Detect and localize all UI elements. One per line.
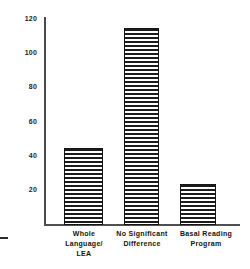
x-label-line-2: Program — [168, 239, 244, 249]
x-label-line-1: Basal Reading — [168, 229, 244, 239]
bar-chart: 120 100 80 60 40 20 Whole Language/ LEA … — [0, 0, 250, 269]
bar-basal-reading-program — [180, 184, 216, 225]
x-label-basal-reading-program: Basal Reading Program — [168, 229, 244, 249]
bar-whole-language-lea — [64, 148, 103, 225]
x-axis-category-labels: Whole Language/ LEA No Significant Diffe… — [0, 229, 250, 269]
bar-no-significant-difference — [124, 28, 159, 225]
x-label-line-3: LEA — [48, 249, 120, 259]
